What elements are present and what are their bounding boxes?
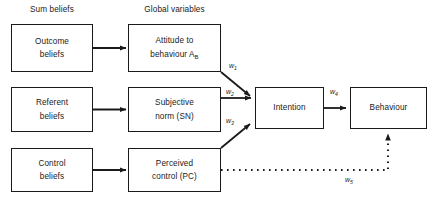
weight-label-w5: w5 (345, 176, 353, 184)
node-outcome-beliefs[interactable]: Outcome beliefs (11, 24, 93, 72)
node-attitude-subscript: B (195, 54, 199, 60)
node-perceived-control[interactable]: Perceived control (PC) (128, 148, 221, 192)
node-control-beliefs[interactable]: Control beliefs (11, 148, 93, 192)
node-perceived-control-line2: control (PC) (152, 170, 197, 184)
weight-w5-subscript: 5 (350, 179, 353, 185)
weight-w4-subscript: 4 (335, 91, 338, 97)
node-control-beliefs-line2: beliefs (40, 170, 64, 184)
node-attitude-to-behaviour[interactable]: Attitude to behaviour AB (128, 24, 221, 72)
column-header-sum-beliefs: Sum beliefs (11, 5, 93, 15)
weight-label-w2: w2 (226, 88, 234, 96)
node-behaviour-label: Behaviour (370, 101, 408, 115)
node-intention[interactable]: Intention (255, 87, 324, 129)
weight-w3-subscript: 3 (231, 120, 234, 126)
node-behaviour[interactable]: Behaviour (350, 87, 427, 129)
node-subjective-norm[interactable]: Subjective norm (SN) (128, 87, 221, 132)
diagram-canvas: Sum beliefs Global variables Outcome bel… (0, 0, 437, 207)
connector-perceived-to-intention (221, 124, 250, 148)
node-outcome-beliefs-line1: Outcome (35, 35, 69, 49)
node-attitude-line2: behaviour AB (150, 48, 198, 63)
node-intention-label: Intention (273, 101, 305, 115)
node-referent-beliefs[interactable]: Referent beliefs (11, 87, 93, 132)
node-perceived-control-line1: Perceived (156, 157, 193, 171)
weight-label-w4: w4 (330, 88, 338, 96)
node-referent-beliefs-line2: beliefs (40, 110, 64, 124)
node-outcome-beliefs-line2: beliefs (40, 48, 64, 62)
weight-w2-subscript: 2 (231, 91, 234, 97)
node-attitude-line2-text: behaviour A (150, 50, 194, 59)
weight-label-w3: w3 (226, 117, 234, 125)
column-header-global-variables: Global variables (128, 5, 221, 15)
node-subjective-norm-line1: Subjective (155, 96, 194, 110)
node-attitude-line1: Attitude to (156, 34, 194, 48)
node-subjective-norm-line2: norm (SN) (155, 110, 194, 124)
weight-w1-subscript: 1 (234, 65, 237, 71)
node-control-beliefs-line1: Control (38, 157, 65, 171)
weight-label-w1: w1 (229, 62, 237, 70)
node-referent-beliefs-line1: Referent (36, 96, 68, 110)
connector-perceived-to-behaviour-dotted (221, 134, 388, 170)
